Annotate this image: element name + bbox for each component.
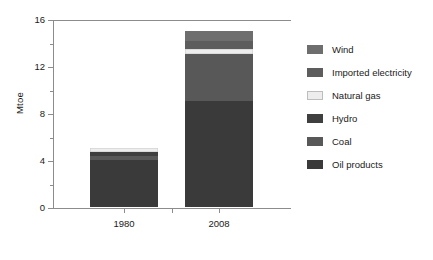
y-tick-label: 0 (40, 203, 45, 213)
x-tick-mark (219, 208, 220, 213)
y-tick-mark-minor (50, 138, 53, 139)
legend-item[interactable]: Wind (307, 38, 431, 61)
y-axis-line (53, 20, 54, 209)
y-tick-label: 12 (34, 62, 45, 72)
chart-legend: WindImported electricityNatural gasHydro… (307, 38, 431, 176)
bar-segment[interactable] (185, 49, 253, 54)
legend-item[interactable]: Oil products (307, 153, 431, 176)
legend-item[interactable]: Hydro (307, 107, 431, 130)
y-tick-label: 8 (40, 109, 45, 119)
legend-label: Oil products (332, 160, 383, 170)
legend-swatch-icon (307, 137, 323, 146)
legend-swatch-icon (307, 68, 323, 77)
x-tick-label: 2008 (208, 218, 229, 229)
legend-label: Natural gas (332, 91, 381, 101)
bar-segment[interactable] (185, 41, 253, 49)
legend-label: Imported electricity (332, 68, 412, 78)
plot-area: 0481216 19802008 (53, 20, 291, 208)
y-tick-mark-minor (50, 91, 53, 92)
y-tick-mark (48, 67, 53, 68)
y-tick-mark-minor (50, 185, 53, 186)
legend-swatch-icon (307, 114, 323, 123)
chart-figure: Mtoe 0481216 19802008 WindImported elect… (0, 0, 433, 260)
y-tick-mark-minor (50, 44, 53, 45)
y-tick-mark (48, 114, 53, 115)
y-tick-label: 4 (40, 156, 45, 166)
bar-segment[interactable] (90, 156, 158, 160)
legend-label: Hydro (332, 114, 357, 124)
legend-item[interactable]: Natural gas (307, 84, 431, 107)
stacked-bar[interactable] (185, 19, 253, 207)
x-tick-mark-center (172, 208, 173, 213)
bar-segment[interactable] (90, 152, 158, 156)
bar-group[interactable] (90, 19, 158, 207)
legend-swatch-icon (307, 160, 323, 169)
bar-group[interactable] (185, 19, 253, 207)
x-tick-mark (124, 208, 125, 213)
y-tick-mark (48, 161, 53, 162)
legend-swatch-icon (307, 45, 323, 54)
legend-label: Wind (332, 45, 354, 55)
bar-segment[interactable] (90, 160, 158, 207)
bar-segment[interactable] (185, 101, 253, 207)
y-axis-title: Mtoe (14, 92, 25, 114)
bar-segment[interactable] (185, 54, 253, 101)
y-tick-label: 16 (34, 15, 45, 25)
legend-item[interactable]: Imported electricity (307, 61, 431, 84)
legend-item[interactable]: Coal (307, 130, 431, 153)
bar-segment[interactable] (90, 148, 158, 152)
legend-label: Coal (332, 137, 352, 147)
top-axis-line (53, 20, 291, 21)
y-tick-mark (48, 208, 53, 209)
bar-segment[interactable] (185, 31, 253, 41)
x-tick-label: 1980 (113, 218, 134, 229)
stacked-bar[interactable] (90, 19, 158, 207)
legend-swatch-icon (307, 91, 323, 100)
y-tick-mark (48, 20, 53, 21)
